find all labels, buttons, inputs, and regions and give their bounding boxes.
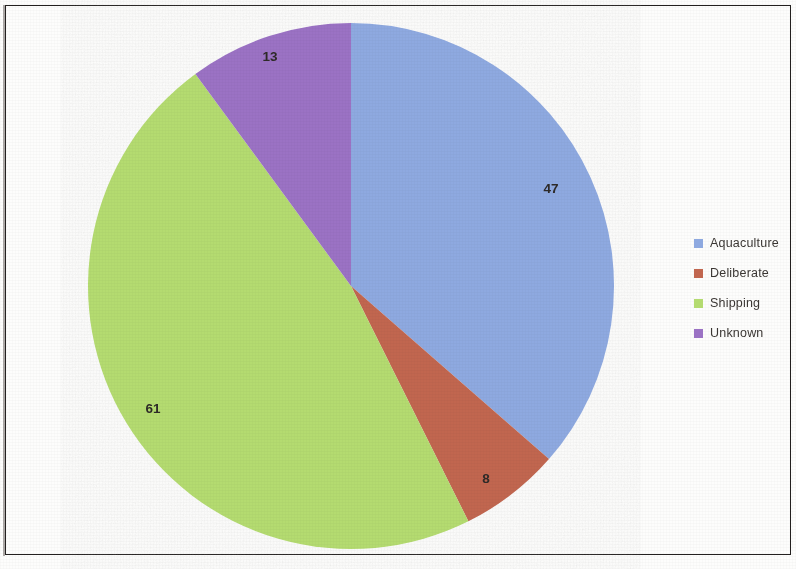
pie-svg: 4786113 — [0, 0, 796, 569]
pie-slice-value-label: 8 — [482, 471, 490, 486]
legend-label: Aquaculture — [710, 236, 779, 250]
legend-item[interactable]: Unknown — [694, 318, 792, 348]
legend-item[interactable]: Aquaculture — [694, 228, 792, 258]
legend-item[interactable]: Deliberate — [694, 258, 792, 288]
legend-swatch-icon — [694, 299, 703, 308]
legend-swatch-icon — [694, 329, 703, 338]
chart-page: 4786113 Aquaculture Deliberate Shipping … — [0, 0, 796, 569]
legend-item[interactable]: Shipping — [694, 288, 792, 318]
pie-chart: 4786113 — [0, 0, 796, 569]
legend-label: Unknown — [710, 326, 764, 340]
pie-slices — [88, 23, 614, 549]
legend-label: Shipping — [710, 296, 760, 310]
chart-legend: Aquaculture Deliberate Shipping Unknown — [694, 228, 792, 348]
pie-slice-value-label: 61 — [145, 401, 161, 416]
legend-swatch-icon — [694, 239, 703, 248]
pie-slice-value-label: 13 — [262, 49, 278, 64]
legend-label: Deliberate — [710, 266, 769, 280]
legend-swatch-icon — [694, 269, 703, 278]
pie-slice-value-label: 47 — [543, 181, 558, 196]
